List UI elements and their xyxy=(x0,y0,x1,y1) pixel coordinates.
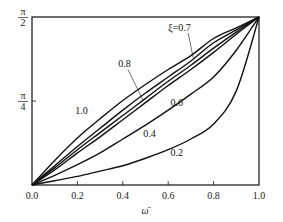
curve-label: 0.4 xyxy=(143,128,156,139)
curve-0.4 xyxy=(32,17,259,185)
y-tick-denominator: 2 xyxy=(21,17,26,28)
chart: 0.00.20.40.60.81.0 π4π2 ξ=0.70.81.00.60.… xyxy=(0,0,283,222)
curve-label: 0.6 xyxy=(170,97,183,108)
x-axis-ticks: 0.00.20.40.60.81.0 xyxy=(26,181,266,201)
curves-group xyxy=(32,17,259,185)
x-tick-label: 0.8 xyxy=(207,190,220,201)
x-tick-label: 0.0 xyxy=(26,190,39,201)
curve-0.8 xyxy=(32,17,259,185)
y-tick-numerator: π xyxy=(20,6,25,17)
leader-line xyxy=(188,33,193,58)
y-tick-numerator: π xyxy=(20,90,25,101)
x-tick-label: 0.2 xyxy=(71,190,84,201)
curve-label: 1.0 xyxy=(75,105,88,116)
curve-0.7 xyxy=(32,17,259,185)
plot-frame xyxy=(32,17,259,185)
curve-label: 0.8 xyxy=(118,58,131,69)
curve-1.0 xyxy=(32,17,259,185)
curve-label: 0.2 xyxy=(170,147,183,158)
x-tick-label: 1.0 xyxy=(253,190,266,201)
y-axis-ticks: π4π2 xyxy=(18,6,36,112)
x-tick-label: 0.6 xyxy=(162,190,175,201)
y-tick-denominator: 4 xyxy=(21,101,26,112)
x-axis-label: ω̄ xyxy=(141,205,151,216)
curve-0.6 xyxy=(32,17,259,185)
curve-label: ξ=0.7 xyxy=(168,22,191,34)
x-tick-label: 0.4 xyxy=(117,190,130,201)
curve-0.2 xyxy=(32,17,259,185)
